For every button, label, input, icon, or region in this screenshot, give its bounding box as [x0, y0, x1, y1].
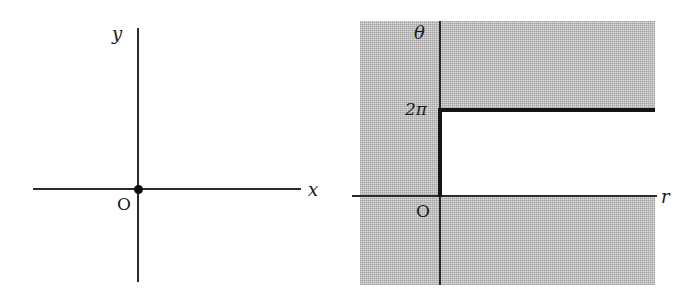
shaded-region-above-two-pi — [440, 21, 655, 112]
panel-cartesian-plane: y x O — [0, 0, 348, 300]
boundary-r-equals-zero — [438, 108, 442, 197]
polar-origin-label: O — [416, 203, 430, 220]
y-axis-label: y — [112, 25, 122, 43]
tick-label-two-pi: 2π — [405, 101, 427, 118]
theta-axis-label: θ — [414, 24, 425, 42]
origin-dot — [134, 185, 143, 194]
shaded-region-below-origin — [440, 196, 655, 285]
figure-container: y x O θ r 2π O — [0, 0, 696, 300]
origin-label: O — [117, 196, 131, 213]
panel-polar-domain: θ r 2π O — [348, 0, 696, 300]
shaded-region-left — [360, 21, 440, 285]
y-axis-line — [137, 28, 139, 282]
x-axis-label: x — [308, 181, 318, 199]
r-axis-label: r — [661, 188, 670, 206]
r-axis-line — [352, 195, 657, 197]
x-axis-line — [33, 188, 301, 190]
boundary-theta-equals-two-pi — [439, 108, 655, 112]
